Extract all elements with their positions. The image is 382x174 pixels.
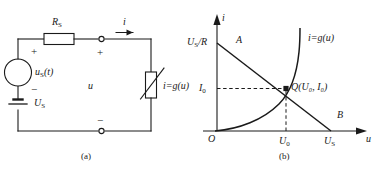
y-axis-label: i (222, 13, 225, 23)
current-label: i (123, 17, 126, 27)
x-tick-label-u0: U0 (279, 136, 290, 148)
operating-point-label: Q(U₀, I₀) (291, 82, 327, 92)
figure-container: RS uS(t) US i=g(u) i u + − + − (a) (0, 0, 382, 174)
terminal-bottom (99, 128, 104, 133)
resistor-label: RS (52, 17, 62, 29)
nonlinear-curve (215, 28, 300, 131)
operating-point-marker (283, 86, 288, 91)
source-plus-sign: + (31, 46, 37, 57)
port-minus-sign: − (97, 115, 103, 126)
current-arrow-head (127, 30, 134, 36)
panel-b-caption: (b) (279, 152, 290, 161)
x-tick-label-us: US (324, 136, 335, 148)
y-tick-label-us-over-r: US/R (187, 37, 207, 49)
panel-a-caption: (a) (81, 152, 91, 161)
iv-characteristic-plot (191, 0, 382, 174)
y-axis-arrowhead (213, 14, 220, 25)
dc-source-label: US (34, 98, 45, 110)
nonlinear-curve-label: i=g(u) (308, 33, 334, 43)
terminal-top (99, 36, 104, 41)
port-voltage-label: u (88, 81, 93, 91)
origin-label: O (208, 134, 215, 144)
port-plus-sign: + (97, 47, 103, 58)
ac-source-label: uS(t) (35, 67, 53, 79)
panel-circuit-diagram: RS uS(t) US i=g(u) i u + − + − (a) (0, 0, 191, 174)
source-minus-sign: − (31, 84, 37, 95)
nonlinear-resistor-label: i=g(u) (163, 81, 189, 91)
resistor-body (44, 34, 74, 45)
ac-source-circle (5, 59, 32, 86)
load-line-label-a: A (236, 35, 242, 45)
x-axis-label: u (366, 134, 371, 144)
panel-graph: i u O US/R I0 U0 US A B i=g(u) Q(U₀, I₀)… (191, 0, 382, 174)
y-tick-label-i0: I0 (199, 83, 206, 95)
load-line-label-b: B (337, 110, 343, 120)
